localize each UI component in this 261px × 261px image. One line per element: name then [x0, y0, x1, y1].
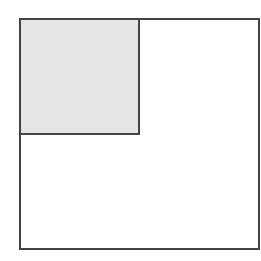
inner-shaded-square — [19, 18, 140, 135]
